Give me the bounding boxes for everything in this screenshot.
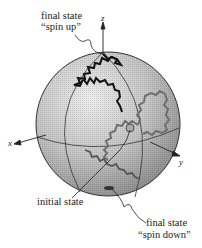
y-axis-label: y xyxy=(178,157,183,167)
final-down-label-line1: final state xyxy=(146,217,187,228)
z-axis-label: z xyxy=(100,13,105,23)
z-arrow-icon xyxy=(101,22,105,29)
initial-state-label: initial state xyxy=(37,196,84,207)
sphere xyxy=(36,52,180,196)
final-down-label-line2: “spin down” xyxy=(138,229,191,240)
final-up-label-line2: “spin up” xyxy=(41,21,81,32)
y-arrow-icon xyxy=(172,151,180,156)
bloch-sphere-diagram: z x y final state “spin up” initial stat… xyxy=(0,0,202,248)
x-arrow-icon xyxy=(14,140,21,145)
x-axis-label: x xyxy=(7,138,12,148)
final-up-label-line1: final state xyxy=(41,10,82,21)
